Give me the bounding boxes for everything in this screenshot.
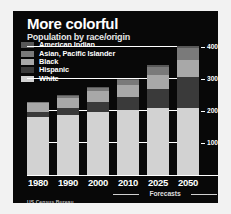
forecast-annotation: Forecasts xyxy=(113,190,217,198)
bar-segment xyxy=(147,75,169,89)
plot-area xyxy=(27,37,199,175)
bar-segment xyxy=(117,97,139,110)
x-tick-label-1990: 1990 xyxy=(53,177,83,188)
x-axis-line xyxy=(27,175,218,176)
bar-segment xyxy=(177,108,199,175)
y-tick-mark xyxy=(201,79,205,80)
y-tick-mark xyxy=(201,47,205,48)
bar-segment xyxy=(177,48,199,60)
bar-segment xyxy=(117,110,139,175)
bar-segment xyxy=(57,98,79,108)
bar-1980 xyxy=(27,102,49,175)
gridline xyxy=(27,78,199,79)
bar-segment xyxy=(147,67,169,75)
infographic-root: More colorful Population by race/origin … xyxy=(0,0,231,214)
x-tick-label-2010: 2010 xyxy=(113,177,143,188)
page-title: More colorful xyxy=(27,16,118,32)
bar-1990 xyxy=(57,95,79,175)
y-tick-label: 300 xyxy=(207,75,218,82)
gridline xyxy=(27,46,199,47)
source-credit: US Census Bureau xyxy=(27,199,74,203)
bar-segment xyxy=(177,60,199,77)
y-tick-label: 200 xyxy=(207,107,218,114)
bar-2010 xyxy=(117,79,139,175)
bar-2050 xyxy=(177,46,199,175)
chart-panel: More colorful Population by race/origin … xyxy=(13,11,218,203)
x-tick-label-2000: 2000 xyxy=(83,177,113,188)
x-tick-label-2025: 2025 xyxy=(143,177,173,188)
bar-segment xyxy=(177,77,199,108)
bar-2000 xyxy=(87,87,109,175)
y-tick-label: 100 xyxy=(207,139,218,146)
bar-segment xyxy=(117,85,139,97)
bar-segment xyxy=(57,115,79,175)
bar-segment xyxy=(87,91,109,102)
gridline xyxy=(27,110,199,111)
gridline xyxy=(27,142,199,143)
x-tick-label-2050: 2050 xyxy=(173,177,203,188)
bar-segment xyxy=(27,103,49,112)
y-tick-mark xyxy=(201,143,205,144)
bar-segment xyxy=(57,108,79,115)
forecast-label: Forecasts xyxy=(113,190,217,197)
bar-segment xyxy=(27,117,49,175)
x-tick-label-1980: 1980 xyxy=(23,177,53,188)
y-tick-label: 400 xyxy=(207,43,218,50)
bar-segment xyxy=(87,112,109,175)
y-tick-mark xyxy=(201,111,205,112)
bar-2025 xyxy=(147,65,169,175)
bar-segment xyxy=(87,102,109,112)
bar-segment xyxy=(147,89,169,108)
bar-segment xyxy=(147,108,169,175)
